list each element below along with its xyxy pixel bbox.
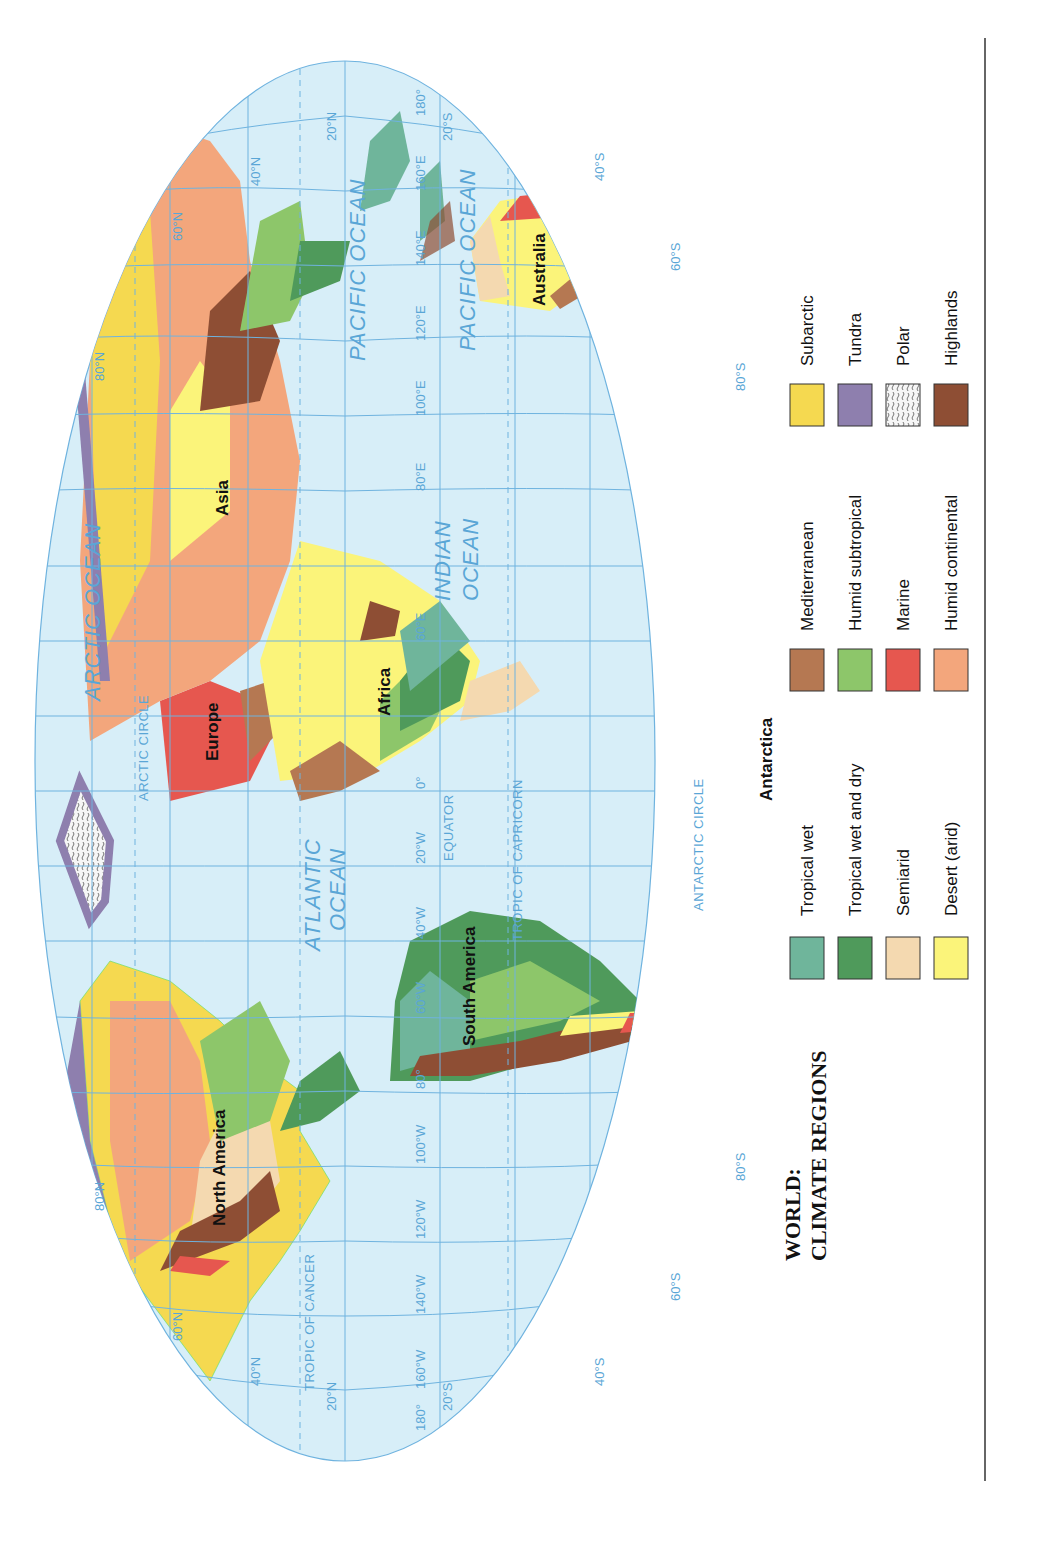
svg-text:40°S: 40°S <box>592 152 607 181</box>
legend-item-mediterranean: Mediterranean <box>790 521 824 691</box>
svg-text:20°S: 20°S <box>440 1382 455 1411</box>
legend-item-marine: Marine <box>886 579 920 691</box>
ocean-label-indian-2: OCEAN <box>458 518 483 601</box>
antarctic-circle-label: ANTARCTIC CIRCLE <box>691 778 706 911</box>
ocean-label-arctic: ARCTIC OCEAN <box>80 523 105 703</box>
svg-text:120°E: 120°E <box>413 305 428 341</box>
svg-text:20°W: 20°W <box>413 831 428 864</box>
svg-text:80°E: 80°E <box>413 462 428 491</box>
svg-text:Polar: Polar <box>894 326 913 366</box>
continent-label-europe: Europe <box>203 702 222 761</box>
svg-text:100°W: 100°W <box>413 1124 428 1164</box>
svg-text:80°S: 80°S <box>733 1152 748 1181</box>
svg-text:80°: 80° <box>413 1069 428 1089</box>
svg-text:160°E: 160°E <box>413 155 428 191</box>
svg-text:20°S: 20°S <box>440 112 455 141</box>
svg-text:40°W: 40°W <box>413 906 428 939</box>
svg-text:180°: 180° <box>413 1404 428 1431</box>
svg-text:60°S: 60°S <box>668 1272 683 1301</box>
svg-text:40°N: 40°N <box>248 1357 263 1386</box>
svg-text:Mediterranean: Mediterranean <box>798 521 817 631</box>
legend-item-humid-subtropical: Humid subtropical <box>838 495 872 691</box>
svg-text:Tropical wet and dry: Tropical wet and dry <box>846 763 865 916</box>
svg-text:Tundra: Tundra <box>846 312 865 366</box>
svg-text:Subarctic: Subarctic <box>798 295 817 366</box>
svg-text:60°N: 60°N <box>170 1312 185 1341</box>
svg-text:0°: 0° <box>413 777 428 789</box>
antarctica-landmass <box>660 61 760 1181</box>
svg-text:Semiarid: Semiarid <box>894 849 913 916</box>
legend-item-tropical-wet: Tropical wet <box>790 825 824 979</box>
equator-label: EQUATOR <box>441 794 456 861</box>
svg-text:140°W: 140°W <box>413 1274 428 1314</box>
svg-text:Highlands: Highlands <box>942 290 961 366</box>
rotated-page: ARCTIC OCEAN PACIFIC OCEAN ATLANTIC OCEA… <box>0 0 1038 1561</box>
svg-text:140°E: 140°E <box>413 230 428 266</box>
svg-text:40°N: 40°N <box>248 157 263 186</box>
svg-text:160°W: 160°W <box>413 1349 428 1389</box>
ocean-label-atlantic-2: OCEAN <box>325 848 350 931</box>
svg-text:60°N: 60°N <box>170 212 185 241</box>
legend-item-desert: Desert (arid) <box>934 822 968 979</box>
svg-text:60°S: 60°S <box>668 242 683 271</box>
svg-text:Marine: Marine <box>894 579 913 631</box>
svg-text:120°W: 120°W <box>413 1199 428 1239</box>
legend-item-tundra: Tundra <box>838 312 872 426</box>
continent-label-antarctica: Antarctica <box>757 717 776 801</box>
tropic-of-capricorn-label: TROPIC OF CAPRICORN <box>510 779 525 941</box>
svg-text:180°: 180° <box>413 89 428 116</box>
tropic-of-cancer-label: TROPIC OF CANCER <box>302 1254 317 1391</box>
ocean-label-pacific-east: PACIFIC OCEAN <box>455 168 480 351</box>
svg-text:60°W: 60°W <box>413 981 428 1014</box>
continent-label-asia: Asia <box>213 480 232 516</box>
svg-text:Desert (arid): Desert (arid) <box>942 822 961 916</box>
svg-text:Humid subtropical: Humid subtropical <box>846 495 865 631</box>
legend-item-polar: Polar <box>886 326 920 426</box>
continent-label-north-america: North America <box>210 1109 229 1226</box>
legend-item-highlands: Highlands <box>934 290 968 426</box>
svg-text:20°N: 20°N <box>324 1382 339 1411</box>
legend-item-semiarid: Semiarid <box>886 849 920 979</box>
svg-text:Humid continental: Humid continental <box>942 495 961 631</box>
svg-text:20°N: 20°N <box>324 112 339 141</box>
svg-text:40°S: 40°S <box>592 1357 607 1386</box>
map-title-line2: CLIMATE REGIONS <box>806 1051 831 1261</box>
arctic-circle-label: ARCTIC CIRCLE <box>136 695 151 801</box>
map-title-line1: WORLD: <box>780 1168 805 1261</box>
legend-item-tropical-wet-and-dry: Tropical wet and dry <box>838 763 872 979</box>
svg-text:80°N: 80°N <box>92 352 107 381</box>
svg-text:100°E: 100°E <box>413 380 428 416</box>
continent-label-africa: Africa <box>375 667 394 716</box>
legend-item-humid-continental: Humid continental <box>934 495 968 691</box>
svg-text:60°E: 60°E <box>413 612 428 641</box>
continent-label-australia: Australia <box>530 233 549 306</box>
svg-text:80°S: 80°S <box>733 362 748 391</box>
ocean-label-pacific-west: PACIFIC OCEAN <box>345 178 370 361</box>
legend-item-subarctic: Subarctic <box>790 295 824 426</box>
continent-label-south-america: South America <box>460 926 479 1046</box>
ocean-label-atlantic: ATLANTIC <box>300 838 325 953</box>
legend: Tropical wet Tropical wet and dry Semiar… <box>790 290 968 979</box>
climate-map: ARCTIC OCEAN PACIFIC OCEAN ATLANTIC OCEA… <box>0 0 1038 1561</box>
svg-text:Tropical wet: Tropical wet <box>798 825 817 916</box>
svg-text:80°N: 80°N <box>92 1182 107 1211</box>
ocean-label-indian: INDIAN <box>430 520 455 601</box>
